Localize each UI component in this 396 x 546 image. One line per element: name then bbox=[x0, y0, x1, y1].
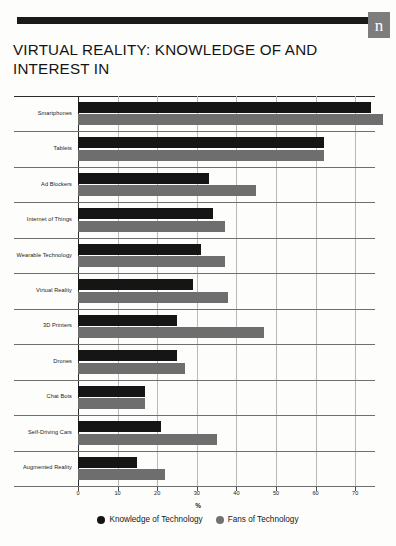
row-separator bbox=[14, 309, 375, 310]
legend-label-fans: Fans of Technology bbox=[228, 515, 299, 524]
bar-knowledge bbox=[78, 137, 324, 148]
legend-label-knowledge: Knowledge of Technology bbox=[109, 515, 202, 524]
bar-knowledge bbox=[78, 173, 209, 184]
bar-knowledge bbox=[78, 457, 137, 468]
x-tick-label-30: 30 bbox=[194, 490, 200, 496]
bar-knowledge bbox=[78, 386, 145, 397]
row-separator bbox=[14, 238, 375, 239]
bar-knowledge bbox=[78, 315, 177, 326]
chart-row: Self-Driving Cars bbox=[78, 415, 375, 450]
bar-fans bbox=[78, 327, 264, 338]
bar-fans bbox=[78, 398, 145, 409]
bar-fans bbox=[78, 150, 324, 161]
category-label: Augmented Reality bbox=[23, 464, 72, 470]
row-separator bbox=[14, 451, 375, 452]
legend-marker-fans-icon bbox=[216, 516, 224, 524]
category-label: Chat Bots bbox=[47, 393, 72, 399]
page-title: VIRTUAL REALITY: KNOWLEDGE OF AND INTERE… bbox=[13, 40, 371, 78]
chart-legend: Knowledge of Technology Fans of Technolo… bbox=[0, 515, 396, 524]
category-label: Internet of Things bbox=[27, 216, 72, 222]
brand-logo: n bbox=[368, 12, 390, 38]
bar-fans bbox=[78, 185, 256, 196]
row-separator bbox=[14, 202, 375, 203]
category-label: Smartphones bbox=[38, 110, 72, 116]
bar-knowledge bbox=[78, 102, 371, 113]
category-label: Wearable Technology bbox=[17, 252, 73, 258]
x-tick-label-20: 20 bbox=[154, 490, 160, 496]
chart-row: Wearable Technology bbox=[78, 238, 375, 273]
bar-fans bbox=[78, 256, 225, 267]
x-tick-label-10: 10 bbox=[114, 490, 120, 496]
bar-knowledge bbox=[78, 244, 201, 255]
category-label: Tablets bbox=[54, 145, 72, 151]
bar-knowledge bbox=[78, 350, 177, 361]
chart-row: Chat Bots bbox=[78, 380, 375, 415]
bar-fans bbox=[78, 363, 185, 374]
category-label: 3D Printers bbox=[43, 322, 72, 328]
x-tick-label-70: 70 bbox=[352, 490, 358, 496]
category-label: Self-Driving Cars bbox=[28, 429, 72, 435]
row-separator bbox=[14, 486, 375, 487]
x-tick-label-60: 60 bbox=[312, 490, 318, 496]
bar-knowledge bbox=[78, 421, 161, 432]
chart-row: Internet of Things bbox=[78, 202, 375, 237]
row-separator bbox=[14, 131, 375, 132]
chart-row: Smartphones bbox=[78, 96, 375, 131]
header-rule bbox=[17, 17, 379, 24]
x-tick-label-40: 40 bbox=[233, 490, 239, 496]
row-separator bbox=[14, 167, 375, 168]
chart-row: Virtual Reality bbox=[78, 273, 375, 308]
x-tick-label-50: 50 bbox=[273, 490, 279, 496]
row-separator bbox=[14, 273, 375, 274]
bar-fans bbox=[78, 292, 228, 303]
chart-row: 3D Printers bbox=[78, 309, 375, 344]
row-separator bbox=[14, 344, 375, 345]
bar-fans bbox=[78, 469, 165, 480]
chart-page: n VIRTUAL REALITY: KNOWLEDGE OF AND INTE… bbox=[0, 0, 396, 546]
category-label: Drones bbox=[53, 358, 72, 364]
plot-area: SmartphonesTabletsAd BlockersInternet of… bbox=[78, 96, 375, 486]
bar-chart: SmartphonesTabletsAd BlockersInternet of… bbox=[0, 96, 396, 496]
x-tick-label-0: 0 bbox=[76, 490, 79, 496]
chart-row: Ad Blockers bbox=[78, 167, 375, 202]
bar-fans bbox=[78, 114, 383, 125]
legend-marker-knowledge-icon bbox=[97, 516, 105, 524]
row-separator bbox=[14, 380, 375, 381]
bar-fans bbox=[78, 221, 225, 232]
bar-knowledge bbox=[78, 208, 213, 219]
category-label: Virtual Reality bbox=[36, 287, 72, 293]
x-axis-label: % bbox=[0, 502, 396, 509]
row-separator bbox=[14, 415, 375, 416]
bar-fans bbox=[78, 434, 217, 445]
chart-row: Tablets bbox=[78, 131, 375, 166]
legend-item-fans: Fans of Technology bbox=[216, 515, 299, 524]
chart-row: Augmented Reality bbox=[78, 451, 375, 486]
legend-item-knowledge: Knowledge of Technology bbox=[97, 515, 202, 524]
chart-row: Drones bbox=[78, 344, 375, 379]
category-label: Ad Blockers bbox=[41, 181, 72, 187]
bar-knowledge bbox=[78, 279, 193, 290]
brand-logo-letter: n bbox=[375, 17, 384, 34]
